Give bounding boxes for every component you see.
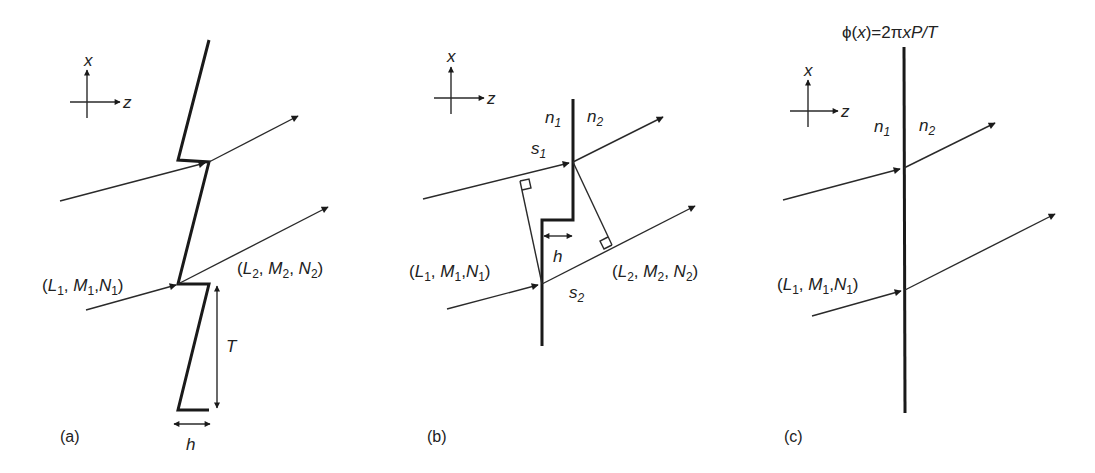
medium-n2-label: n2 [919,116,935,138]
incident-direction-cosines-label: (L1, M1,N1) [42,276,124,298]
wavefront-perpendicular-refracted [573,162,612,245]
phase-interface-line [904,47,905,413]
right-angle-mark [600,237,612,249]
refracted-ray-lower [905,214,1055,290]
step-label: h [553,247,562,266]
incident-direction-cosines-label: (L1, M1,N1) [409,262,491,284]
diffraction-diagram: x z T h (L1, M1,N1) (L2, M2, N2) (a) x z [0,0,1095,473]
axes-icon: x z [70,51,132,118]
medium-n2-label: n2 [587,107,603,129]
path-s2-label: s2 [569,283,585,305]
medium-n1-label: n1 [545,108,561,130]
stepped-interface [542,99,573,346]
refracted-ray-upper [209,116,298,162]
phase-function-label: ϕ(x)=2πxP/T [842,23,939,42]
incident-ray-upper [783,169,900,200]
path-s1-label: s1 [531,139,546,161]
refracted-direction-cosines-label: (L2, M2, N2) [237,259,323,281]
panel-b: x z h n1 n2 s1 s2 (L1, M1,N1) (L2, M2, N… [409,47,698,445]
axis-z-label: z [122,93,132,112]
refracted-direction-cosines-label: (L2, M2, N2) [612,262,698,284]
axis-x-label: x [803,61,813,80]
axis-x-label: x [446,47,456,66]
incident-ray-upper [60,163,205,201]
refracted-ray-upper [904,123,995,168]
incident-ray-upper [423,163,569,199]
axis-z-label: z [840,102,850,121]
panel-caption: (c) [784,428,803,445]
axes-icon: x z [434,47,496,114]
period-label: T [226,337,238,356]
panel-c: ϕ(x)=2πxP/T x z n1 n2 (L1, M1,N1) (c) [777,23,1055,445]
axes-icon: x z [790,61,850,127]
incident-direction-cosines-label: (L1, M1,N1) [777,275,859,297]
axis-x-label: x [83,51,93,70]
axis-z-label: z [486,89,496,108]
sawtooth-surface [178,40,209,410]
wavefront-perpendicular-incident [520,181,542,284]
incident-ray-lower [447,285,538,309]
panel-caption: (b) [427,428,447,445]
panel-a: x z T h (L1, M1,N1) (L2, M2, N2) (a) [42,40,328,454]
medium-n1-label: n1 [874,117,890,139]
step-label: h [186,435,195,454]
panel-caption: (a) [60,428,80,445]
